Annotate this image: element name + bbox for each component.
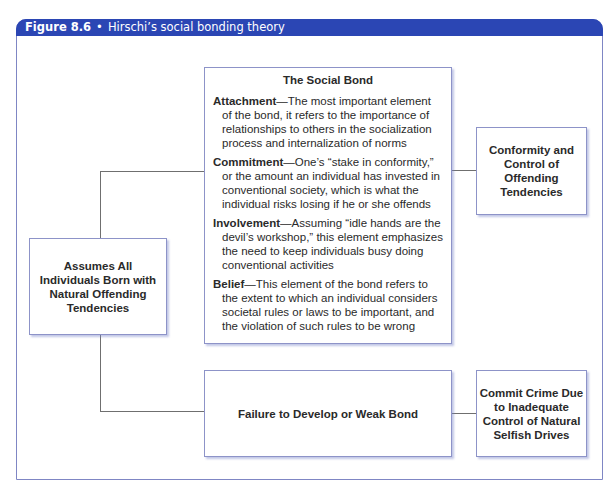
conformity-label: Conformity and Control of Offending Tend… xyxy=(477,143,586,199)
figure-number: Figure 8.6 xyxy=(25,20,91,34)
dash: — xyxy=(244,278,256,290)
origin-label: Assumes All Individuals Born with Natura… xyxy=(30,259,166,315)
failure-node: Failure to Develop or Weak Bond xyxy=(204,370,452,457)
term-label: Commitment xyxy=(213,156,283,168)
crime-node: Commit Crime Due to Inadequate Control o… xyxy=(476,370,587,457)
bond-element-belief: Belief—This element of the bond refers t… xyxy=(213,277,443,333)
term-label: Belief xyxy=(213,278,244,290)
figure-title: Hirschi’s social bonding theory xyxy=(108,20,285,34)
social-bond-title: The Social Bond xyxy=(213,73,443,87)
social-bond-node: The Social Bond Attachment—The most impo… xyxy=(204,67,452,344)
connector-origin-up xyxy=(100,171,101,238)
dash: — xyxy=(283,156,295,168)
crime-label: Commit Crime Due to Inadequate Control o… xyxy=(477,386,586,442)
connector-origin-down xyxy=(100,335,101,412)
bond-element-commitment: Commitment—One’s “stake in conformity,” … xyxy=(213,155,443,211)
connector-to-failure xyxy=(100,411,204,412)
figure-header: Figure 8.6•Hirschi’s social bonding theo… xyxy=(16,19,603,36)
connector-failure-to-crime xyxy=(452,413,476,414)
term-label: Involvement xyxy=(213,217,280,229)
connector-bond-to-conformity xyxy=(452,170,476,171)
origin-node: Assumes All Individuals Born with Natura… xyxy=(29,238,167,335)
conformity-node: Conformity and Control of Offending Tend… xyxy=(476,127,587,215)
connector-to-bond xyxy=(100,171,204,172)
bond-element-attachment: Attachment—The most important element of… xyxy=(213,94,443,150)
bullet-separator: • xyxy=(96,20,103,34)
dash: — xyxy=(280,217,292,229)
failure-label: Failure to Develop or Weak Bond xyxy=(238,407,418,421)
dash: — xyxy=(276,95,288,107)
bond-element-involvement: Involvement—Assuming “idle hands are the… xyxy=(213,216,443,272)
term-label: Attachment xyxy=(213,95,276,107)
